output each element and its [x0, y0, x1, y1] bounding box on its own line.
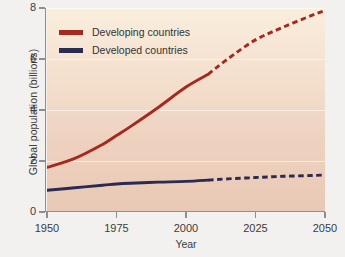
y-tick-label: 8 — [0, 1, 36, 13]
legend-label: Developed countries — [92, 44, 188, 56]
y-tick-label: 4 — [0, 103, 36, 115]
x-tick-label: 2025 — [228, 222, 284, 234]
x-tick-label: 1950 — [19, 222, 75, 234]
x-tick-mark — [116, 212, 117, 218]
legend-swatch-icon — [59, 48, 83, 53]
y-axis-line — [45, 8, 46, 212]
legend-item: Developing countries — [59, 24, 190, 40]
y-tick-mark — [39, 109, 45, 110]
y-tick-mark — [39, 58, 45, 59]
x-tick-mark — [324, 212, 325, 218]
series-line-solid — [47, 180, 208, 190]
chart-legend: Developing countriesDeveloped countries — [59, 24, 190, 60]
series-line-solid — [47, 74, 208, 167]
legend-item: Developed countries — [59, 42, 190, 58]
population-projection-chart: Global population (billions) 02468 19501… — [0, 0, 345, 257]
y-tick-mark — [39, 7, 45, 8]
y-tick-label: 0 — [0, 205, 36, 217]
y-tick-label: 2 — [0, 154, 36, 166]
series-line-projected — [208, 175, 325, 180]
y-tick-mark — [39, 160, 45, 161]
series-line-projected — [208, 11, 325, 75]
x-tick-label: 1975 — [89, 222, 145, 234]
x-tick-mark — [185, 212, 186, 218]
x-tick-label: 2000 — [158, 222, 214, 234]
y-tick-mark — [39, 211, 45, 212]
legend-label: Developing countries — [92, 26, 190, 38]
x-tick-mark — [46, 212, 47, 218]
x-axis-title: Year — [47, 238, 325, 250]
x-tick-label: 2050 — [297, 222, 345, 234]
y-tick-label: 6 — [0, 52, 36, 64]
legend-swatch-icon — [59, 30, 83, 35]
x-tick-mark — [255, 212, 256, 218]
